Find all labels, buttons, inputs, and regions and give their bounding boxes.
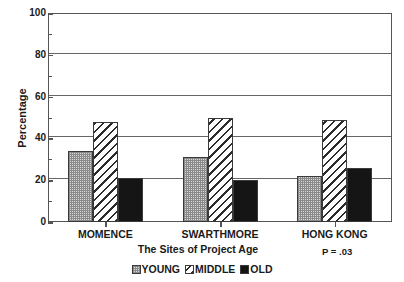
x-label-swarthmore: SWARTHMORE	[160, 228, 280, 240]
x-tick-hong-kong	[335, 222, 337, 227]
p-value-annotation: P = .03	[322, 246, 352, 257]
y-tick-label-80: 80	[6, 50, 46, 60]
y-tick-major-0	[48, 222, 53, 224]
chart-legend: YOUNGMIDDLEOLD	[0, 263, 404, 275]
y-tick-label-60: 60	[6, 92, 46, 102]
legend-swatch-old-icon	[240, 265, 249, 274]
legend-swatch-middle-icon	[185, 265, 194, 274]
x-axis-title: The Sites of Project Age	[48, 243, 348, 255]
bar-momence-middle	[93, 122, 118, 222]
bar-hong-kong-middle	[322, 120, 347, 222]
bar-swarthmore-middle	[208, 118, 233, 223]
bar-hong-kong-old	[347, 168, 372, 222]
legend-label-young: YOUNG	[142, 263, 181, 275]
y-tick-label-100: 100	[6, 8, 46, 18]
legend-swatch-young-icon	[132, 265, 141, 274]
y-axis-title: Percentage	[16, 63, 28, 173]
bar-momence-old	[118, 178, 143, 222]
bar-chart: Percentage 020406080100 MOMENCESWARTHMOR…	[0, 0, 404, 282]
legend-item-young: YOUNG	[132, 263, 181, 275]
y-tick-label-0: 0	[6, 217, 46, 227]
x-tick-momence	[105, 222, 107, 227]
y-tick-label-40: 40	[6, 133, 46, 143]
x-tick-swarthmore	[220, 222, 222, 227]
legend-label-old: OLD	[250, 263, 272, 275]
bar-swarthmore-old	[233, 180, 258, 222]
bar-hong-kong-young	[297, 176, 322, 222]
legend-item-middle: MIDDLE	[185, 263, 235, 275]
y-tick-label-20: 20	[6, 175, 46, 185]
x-label-hong-kong: HONG KONG	[275, 228, 395, 240]
legend-label-middle: MIDDLE	[195, 263, 235, 275]
x-label-momence: MOMENCE	[45, 228, 165, 240]
legend-item-old: OLD	[240, 263, 272, 275]
bars-layer	[48, 13, 392, 222]
bar-swarthmore-young	[183, 157, 208, 222]
bar-momence-young	[68, 151, 93, 222]
